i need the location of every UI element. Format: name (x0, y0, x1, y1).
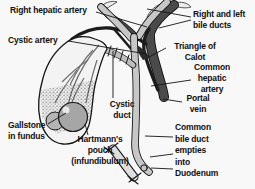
label-right-hepatic-artery: Right hepatic artery (10, 5, 87, 16)
label-cystic-duct: Cystic duct (100, 99, 144, 121)
label-right-left-bile-ducts: Right and left bile ducts (193, 9, 245, 31)
label-hartmanns-pouch: Hartmann's pouch (infundibulum) (58, 134, 142, 167)
anatomy-diagram: Right hepatic artery Cystic artery Right… (0, 0, 255, 189)
label-common-bile-duct-duodenum: Common bile duct empties into Duodenum (175, 122, 218, 180)
label-portal-vein: Portal vein (180, 93, 216, 115)
label-cystic-artery: Cystic artery (8, 35, 58, 46)
label-gallstone-in-fundus: Gallstone in fundus (8, 120, 45, 142)
label-triangle-of-calot: Triangle of Calot (167, 41, 223, 63)
label-common-hepatic-artery: Common hepatic artery (192, 62, 232, 95)
